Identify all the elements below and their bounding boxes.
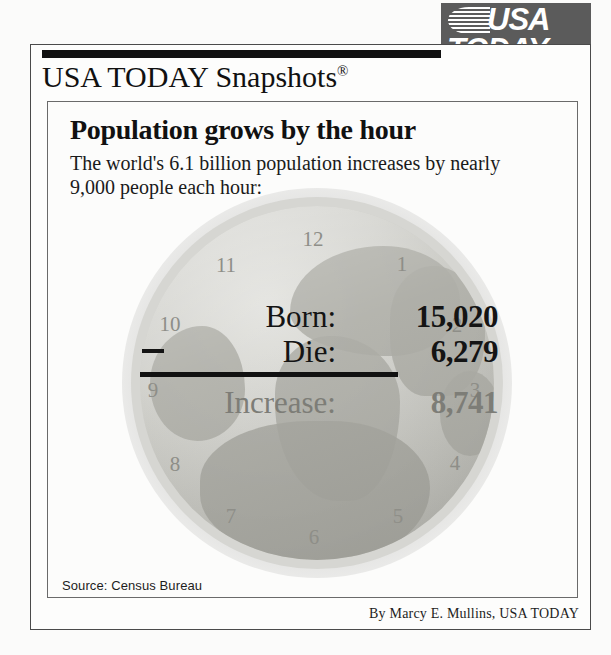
calc-label-increase: Increase: [224, 386, 336, 420]
clock-numeral-7: 7 [214, 506, 248, 527]
snapshot-panel: Population grows by the hour The world's… [47, 101, 578, 598]
source-note: Source: Census Bureau [62, 578, 202, 593]
snapshots-masthead: USA TODAY Snapshots® [42, 60, 348, 94]
clock-numeral-1: 1 [385, 254, 419, 275]
clock-numeral-6: 6 [297, 527, 331, 548]
byline: By Marcy E. Mullins, USA TODAY [369, 606, 579, 622]
clock-numeral-12: 12 [296, 229, 330, 250]
calc-row-increase: Increase: 8,741 [148, 386, 498, 422]
clock-numeral-4: 4 [438, 453, 472, 474]
calc-label-born: Born: [265, 300, 336, 334]
globe-shading [140, 206, 494, 560]
minus-operator-icon [142, 349, 164, 353]
calc-value-die: 6,279 [346, 335, 498, 369]
calc-value-increase: 8,741 [346, 386, 498, 420]
calc-row-born: Born: 15,020 [148, 300, 498, 335]
subtitle-line-2: 9,000 people each hour: [70, 175, 560, 199]
clock-numeral-5: 5 [381, 506, 415, 527]
registered-mark: ® [337, 63, 348, 79]
globe-sphere [140, 206, 494, 560]
page-title: Population grows by the hour [70, 114, 560, 146]
population-calculation: Born: 15,020 Die: 6,279 [148, 300, 498, 370]
masthead-text: USA TODAY Snapshots [42, 60, 337, 93]
globe-outer-ring [131, 197, 503, 569]
headline-block: Population grows by the hour The world's… [70, 114, 560, 199]
subtitle-line-1: The world's 6.1 billion population incre… [70, 151, 560, 175]
clock-numeral-11: 11 [209, 255, 243, 276]
header-rule [42, 50, 441, 58]
calc-label-die: Die: [283, 335, 336, 369]
calculation-rule [140, 372, 398, 377]
striped-sphere-icon [448, 7, 490, 34]
calc-row-die: Die: 6,279 [148, 335, 498, 370]
calc-value-born: 15,020 [346, 300, 498, 334]
snapshot-page: USA TODAY USA TODAY Snapshots® [0, 0, 611, 655]
clock-numeral-8: 8 [158, 454, 192, 475]
